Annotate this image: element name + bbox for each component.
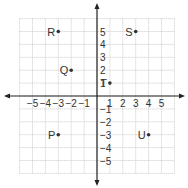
x-tick-label: 4 — [146, 98, 152, 109]
point-marker — [69, 68, 73, 72]
points: RSQTPU — [47, 26, 150, 141]
x-tick-label: 2 — [120, 98, 126, 109]
point-marker — [57, 30, 61, 34]
x-axis-left-arrow-icon — [4, 94, 10, 99]
x-tick-label: 3 — [133, 98, 139, 109]
y-tick-label: 2 — [100, 65, 106, 76]
point-label: S — [125, 26, 132, 38]
point-label: T — [100, 77, 107, 89]
y-tick-label: −2 — [100, 117, 112, 128]
y-tick-label: 3 — [100, 52, 106, 63]
y-tick-label: 4 — [100, 39, 106, 50]
axes — [4, 3, 185, 186]
point-marker — [57, 133, 61, 137]
point-label: Q — [60, 64, 69, 76]
y-tick-label: −3 — [100, 130, 112, 141]
x-tick-label: −1 — [78, 98, 90, 109]
point-marker — [134, 30, 138, 34]
x-tick-label: −3 — [53, 98, 65, 109]
x-tick-label: −5 — [27, 98, 39, 109]
y-tick-label: −1 — [100, 104, 112, 115]
point-label: R — [47, 26, 55, 38]
x-tick-label: −4 — [40, 98, 52, 109]
y-axis-down-arrow-icon — [95, 180, 100, 186]
y-tick-label: 5 — [100, 27, 106, 38]
y-tick-label: −5 — [100, 156, 112, 167]
x-tick-label: 5 — [159, 98, 165, 109]
x-tick-label: −2 — [65, 98, 77, 109]
coordinate-plane: −5−4−3−2−11234554321−1−2−3−4−5 RSQTPU — [0, 0, 188, 188]
y-axis-up-arrow-icon — [95, 3, 100, 9]
y-tick-label: −4 — [100, 143, 112, 154]
point-label: P — [48, 129, 55, 141]
x-axis-right-arrow-icon — [179, 94, 185, 99]
point-label: U — [138, 129, 146, 141]
point-marker — [108, 81, 112, 85]
point-q: Q — [60, 64, 73, 76]
point-marker — [147, 133, 151, 137]
